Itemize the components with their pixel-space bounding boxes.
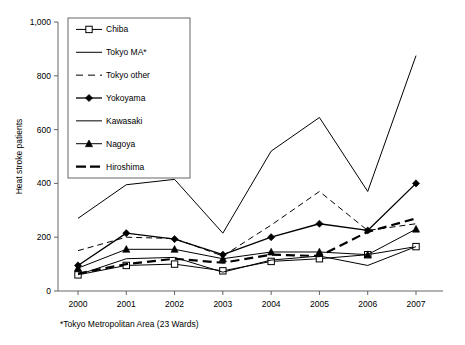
chart-legend: ChibaTokyo MA*Tokyo otherYokoyamaKawasak… [68, 18, 190, 178]
x-axis-tick-label: 2007 [407, 299, 426, 309]
chart-footnote: *Tokyo Metropolitan Area (23 Wards) [60, 319, 199, 329]
legend-item-label: Tokyo MA* [106, 47, 147, 57]
legend-item-label: Nagoya [106, 139, 136, 149]
x-axis-tick-label: 2003 [213, 299, 232, 309]
y-axis-label: Heat stroke patients [14, 119, 24, 195]
legend-item-label: Chiba [106, 24, 128, 34]
data-point-marker [123, 230, 130, 237]
y-axis-tick-label: 1,000 [30, 17, 52, 27]
x-axis-tick-label: 2005 [310, 299, 329, 309]
data-point-marker [268, 234, 275, 241]
y-axis-tick-label: 400 [37, 178, 51, 188]
data-point-marker [412, 225, 419, 232]
data-point-marker [220, 268, 226, 274]
chart-figure: 02004006008001,0002000200120022003200420… [0, 0, 465, 345]
x-axis-tick-label: 2000 [69, 299, 88, 309]
data-point-marker [171, 235, 178, 242]
x-axis-tick-label: 2002 [165, 299, 184, 309]
y-axis-tick-label: 600 [37, 125, 51, 135]
y-axis-tick-label: 0 [46, 286, 51, 296]
line-chart: 02004006008001,0002000200120022003200420… [0, 0, 465, 345]
x-axis-tick-label: 2006 [358, 299, 377, 309]
legend-item-label: Kawasaki [106, 116, 142, 126]
data-point-marker [413, 243, 419, 249]
x-axis-tick-label: 2004 [262, 299, 281, 309]
data-point-marker [86, 26, 92, 32]
data-point-marker [171, 261, 177, 267]
y-axis-tick-label: 800 [37, 71, 51, 81]
legend-item-label: Yokoyama [106, 93, 146, 103]
y-axis-tick-label: 200 [37, 232, 51, 242]
legend-item-label: Tokyo other [106, 70, 150, 80]
data-point-marker [268, 258, 274, 264]
data-point-marker [316, 220, 323, 227]
legend-item-label: Hiroshima [106, 162, 145, 172]
x-axis-tick-label: 2001 [117, 299, 136, 309]
